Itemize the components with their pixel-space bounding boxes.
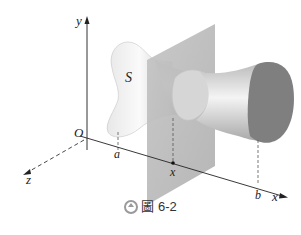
z-axis-label: z [25,172,31,187]
circle-up-arrow-icon [124,200,138,214]
y-axis [85,16,90,150]
y-axis-label: y [74,13,82,28]
z-axis [23,140,84,175]
figure-caption-text: 圖 6-2 [141,199,176,214]
solid-s-label: S [125,70,132,85]
x-point-label: x [169,165,176,179]
a-label: a [114,147,120,161]
origin-label: O [74,125,84,140]
figure-caption: 圖 6-2 [0,196,301,215]
